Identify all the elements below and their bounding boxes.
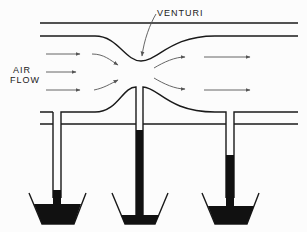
center-tube-fluid	[136, 130, 143, 217]
left-cup-fluid	[34, 204, 81, 224]
lower-wall-right	[143, 87, 298, 198]
center-cup-fluid	[121, 215, 159, 224]
diagram-graphic	[0, 0, 307, 232]
right-tube-fluid	[226, 155, 234, 208]
lower-wall-left	[40, 87, 136, 198]
venturi-diagram: VENTURI AIR FLOW	[0, 0, 307, 232]
flow-label: FLOW	[10, 76, 40, 85]
right-cup-fluid	[208, 206, 254, 224]
venturi-label: VENTURI	[157, 9, 204, 18]
left-tube-fluid	[53, 190, 61, 206]
upper-venturi-wall	[40, 36, 298, 61]
air-label: AIR	[13, 66, 31, 75]
